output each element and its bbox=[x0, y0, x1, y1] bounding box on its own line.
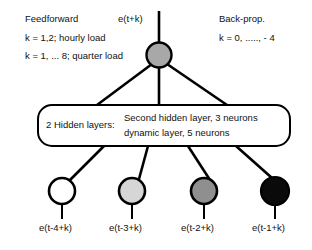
node-input-2 bbox=[191, 178, 217, 204]
feedforward-note-1: k = 1,2; hourly load bbox=[25, 32, 106, 43]
edge-hidden-to-input-2 bbox=[188, 146, 210, 180]
node-input-3 bbox=[261, 177, 289, 205]
edge-output-to-hidden-left bbox=[97, 64, 152, 105]
edge-output-to-hidden-right bbox=[167, 64, 227, 105]
backprop-title: Back-prop. bbox=[219, 13, 265, 24]
feedforward-title: Feedforward bbox=[25, 13, 78, 24]
node-output bbox=[147, 43, 172, 68]
input-node-0-label: e(t-4+k) bbox=[39, 222, 72, 233]
edge-hidden-to-input-1 bbox=[139, 146, 148, 179]
edge-hidden-to-input-3 bbox=[236, 146, 272, 178]
input-node-2-label: e(t-2+k) bbox=[181, 222, 214, 233]
output-node-label: e(t+k) bbox=[118, 13, 143, 24]
input-node-1-label: e(t-3+k) bbox=[109, 222, 142, 233]
hidden-layers-detail-2: dynamic layer, 5 neurons bbox=[124, 127, 230, 138]
edge-hidden-to-input-0 bbox=[70, 146, 104, 180]
feedforward-note-2: k = 1, ... 8; quarter load bbox=[25, 50, 123, 61]
input-node-3-label: e(t-1+k) bbox=[252, 222, 285, 233]
node-input-0 bbox=[49, 178, 75, 204]
network-diagram: Feedforward k = 1,2; hourly load k = 1, … bbox=[0, 0, 312, 250]
hidden-layers-label: 2 Hidden layers: bbox=[46, 119, 115, 130]
hidden-layers-detail-1: Second hidden layer, 3 neurons bbox=[124, 112, 258, 123]
backprop-note-1: k = 0, ....., - 4 bbox=[219, 32, 275, 43]
node-input-1 bbox=[119, 178, 145, 204]
